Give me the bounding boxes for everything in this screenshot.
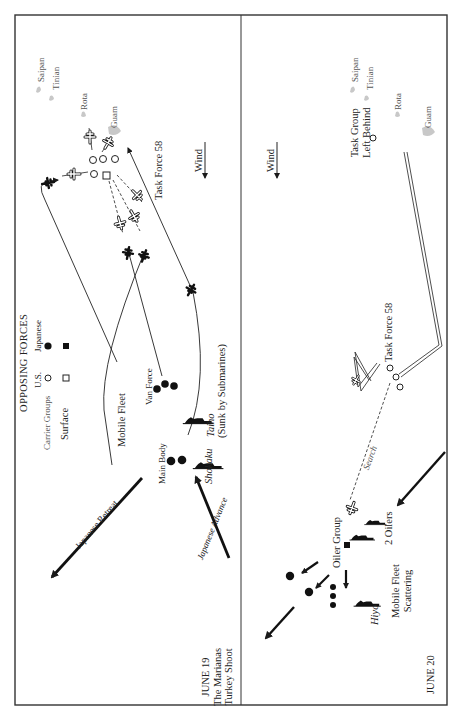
main-body-label: Main Body bbox=[158, 443, 167, 484]
june19-title-line2: Turkey Shoot bbox=[223, 648, 235, 706]
japanese-planes bbox=[41, 177, 198, 298]
mobile-fleet-retreat-arrow bbox=[266, 607, 294, 638]
task-force-58-label-june20: Task Force 58 bbox=[384, 303, 395, 362]
island-rota-june19: Rota bbox=[80, 93, 89, 110]
mobile-fleet-scattering-label: Mobile Fleet Scattering bbox=[390, 564, 413, 618]
wind-label-june19: Wind bbox=[194, 149, 205, 172]
task-group-line2: Left Behind bbox=[361, 108, 373, 158]
taiho-label: Taiho bbox=[206, 413, 217, 437]
oiler-ship-1 bbox=[350, 535, 376, 540]
mobile-fleet-line2: Scattering bbox=[402, 564, 414, 618]
us-surface-group bbox=[103, 172, 110, 179]
june19-title-line1: The Marianas bbox=[212, 648, 224, 706]
main-body-ships bbox=[167, 456, 187, 466]
task-force-58-track bbox=[354, 152, 442, 391]
hiyo-label: Hiyo bbox=[370, 605, 381, 625]
oiler-group-label: Oiler Group bbox=[332, 517, 343, 568]
legend-symbols bbox=[44, 342, 69, 381]
oiler-group-marker bbox=[344, 542, 350, 548]
us-fighters bbox=[62, 128, 145, 234]
us-strike-arrow bbox=[398, 452, 445, 505]
legend-row-surface: Surface bbox=[60, 408, 71, 440]
island-saipan-june19: Saipan bbox=[37, 58, 46, 83]
island-rota-june20: Rota bbox=[394, 93, 403, 110]
task-force-58-carriers-june20 bbox=[387, 365, 403, 390]
shokaku-label: Shokaku bbox=[204, 448, 215, 484]
legend-col-japanese: Japanese bbox=[34, 320, 43, 352]
van-force-ships bbox=[153, 380, 178, 393]
island-guam-june20: Guam bbox=[424, 106, 433, 128]
june19-caption: JUNE 19 The Marianas Turkey Shoot bbox=[200, 648, 235, 706]
legend-title: OPPOSING FORCES bbox=[19, 314, 30, 412]
wind-label-june20: Wind bbox=[266, 149, 277, 172]
search-track bbox=[350, 383, 390, 500]
oilers-label: 2 Oilers bbox=[384, 511, 395, 545]
task-group-left-behind-label: Task Group Left Behind bbox=[349, 108, 372, 158]
search-plane bbox=[345, 501, 359, 516]
mobile-fleet-line1: Mobile Fleet bbox=[390, 564, 402, 618]
island-saipan-june20: Saipan bbox=[351, 58, 360, 83]
sunk-by-submarines-note: (Sunk by Submarines) bbox=[217, 344, 228, 438]
june20-date: JUNE 20 bbox=[426, 655, 437, 694]
island-tinian-june19: Tinian bbox=[52, 67, 61, 90]
island-guam-june19: Guam bbox=[110, 106, 119, 128]
task-force-58-label-june19: Task Force 58 bbox=[154, 141, 165, 200]
task-group-line1: Task Group bbox=[349, 108, 361, 158]
june19-date: JUNE 19 bbox=[200, 648, 212, 706]
legend-col-us: U.S. bbox=[34, 372, 43, 388]
mobile-fleet-label: Mobile Fleet bbox=[117, 393, 128, 447]
legend-row-carrier-groups: Carrier Groups bbox=[43, 396, 52, 450]
scattering-fleet-ships bbox=[286, 572, 336, 608]
van-force-label: Van Force bbox=[145, 368, 154, 405]
island-tinian-june20: Tinian bbox=[366, 67, 375, 90]
